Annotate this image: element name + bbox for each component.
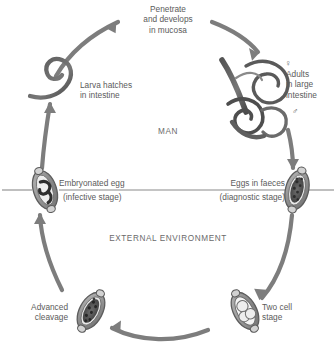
- arrow-cleavage-to-embryonated: [40, 215, 62, 290]
- arrow-twocell-to-cleavage: [112, 328, 208, 339]
- organism-advanced-cleavage-egg: [70, 285, 112, 337]
- arrowhead-embryonated: [34, 213, 46, 224]
- zone-label-external-environment: EXTERNAL ENVIRONMENT: [88, 234, 248, 243]
- stage-label-larva-hatches: Larva hatches in intestine: [80, 80, 164, 101]
- stage-sublabel-embryonated-egg: (infective stage): [63, 192, 173, 202]
- stage-sublabel-eggs-in-faeces: (diagnostic stage): [179, 192, 285, 202]
- stage-label-adults: Adults in large intestine: [286, 69, 336, 100]
- stage-label-advanced-cleavage: Advanced cleavage: [8, 302, 68, 323]
- arrow-penetrate-to-adults: [212, 22, 258, 52]
- arrow-eggs-to-twocell: [262, 215, 292, 298]
- organism-adult-worms: [222, 60, 288, 137]
- arrow-embryonated-to-larva: [42, 104, 50, 168]
- stage-label-penetrate: Penetrate and develops in mucosa: [122, 4, 214, 35]
- arrowhead-larva: [44, 102, 56, 113]
- cycle-arrowheads: [34, 21, 299, 332]
- stage-label-eggs-in-faeces: Eggs in faeces: [185, 178, 285, 188]
- arrow-larva-to-penetrate: [56, 22, 118, 76]
- male-symbol: ♂: [292, 106, 298, 116]
- organism-egg-in-faeces: [280, 165, 314, 216]
- stage-label-two-cell: Two cell stage: [262, 302, 322, 323]
- organism-embryonated-egg: [27, 164, 63, 216]
- arrowhead-eggs: [287, 159, 299, 170]
- stage-label-embryonated-egg: Embryonated egg: [59, 178, 169, 188]
- life-cycle-diagram: Penetrate and develops in mucosa ♀ Adult…: [0, 0, 336, 355]
- zone-label-man: MAN: [128, 127, 208, 136]
- female-symbol: ♀: [285, 58, 291, 68]
